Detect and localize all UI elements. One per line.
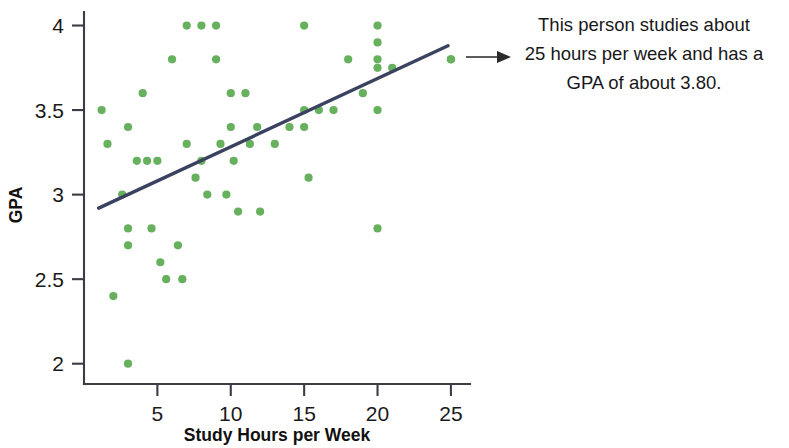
x-tick-label: 10 bbox=[219, 402, 242, 425]
data-point bbox=[124, 123, 132, 131]
trend-line bbox=[99, 46, 448, 208]
data-point bbox=[109, 292, 117, 300]
data-point bbox=[373, 38, 381, 46]
data-point bbox=[227, 123, 235, 131]
data-point bbox=[162, 275, 170, 283]
data-point bbox=[139, 89, 147, 97]
x-tick-label: 5 bbox=[152, 402, 164, 425]
data-point bbox=[344, 55, 352, 63]
data-point bbox=[197, 21, 205, 29]
data-point bbox=[256, 207, 264, 215]
annotation-text: This person studies about 25 hours per w… bbox=[505, 10, 783, 97]
y-axis-title: GPA bbox=[6, 186, 26, 223]
data-point bbox=[168, 55, 176, 63]
scatter-plot-figure: 22.533.54 510152025 Study Hours per Week… bbox=[0, 0, 789, 448]
x-axis-title: Study Hours per Week bbox=[184, 425, 371, 445]
data-point bbox=[230, 157, 238, 165]
y-tick-label: 4 bbox=[52, 14, 64, 37]
data-point bbox=[373, 55, 381, 63]
data-point bbox=[253, 123, 261, 131]
data-point bbox=[373, 21, 381, 29]
data-points-group bbox=[98, 21, 456, 367]
data-point bbox=[178, 275, 186, 283]
data-point bbox=[103, 140, 111, 148]
data-point bbox=[183, 21, 191, 29]
data-point bbox=[373, 106, 381, 114]
data-point bbox=[156, 258, 164, 266]
data-point bbox=[212, 55, 220, 63]
data-point bbox=[153, 157, 161, 165]
data-point bbox=[133, 157, 141, 165]
data-point bbox=[203, 191, 211, 199]
highlighted-data-point bbox=[447, 55, 455, 63]
data-point bbox=[174, 241, 182, 249]
y-tick-label: 3.5 bbox=[35, 99, 64, 122]
y-axis-ticks: 22.533.54 bbox=[35, 14, 84, 375]
y-tick-label: 2 bbox=[52, 352, 64, 375]
data-point bbox=[234, 207, 242, 215]
data-point bbox=[271, 140, 279, 148]
data-point bbox=[222, 191, 230, 199]
y-tick-label: 2.5 bbox=[35, 268, 64, 291]
data-point bbox=[373, 64, 381, 72]
data-point bbox=[300, 21, 308, 29]
x-tick-label: 25 bbox=[439, 402, 462, 425]
x-tick-label: 20 bbox=[366, 402, 389, 425]
data-point bbox=[124, 360, 132, 368]
x-tick-label: 15 bbox=[292, 402, 315, 425]
data-point bbox=[143, 157, 151, 165]
data-point bbox=[359, 89, 367, 97]
data-point bbox=[304, 174, 312, 182]
data-point bbox=[241, 89, 249, 97]
x-axis-ticks: 510152025 bbox=[152, 384, 463, 425]
data-point bbox=[183, 140, 191, 148]
data-point bbox=[300, 123, 308, 131]
data-point bbox=[98, 106, 106, 114]
data-point bbox=[191, 174, 199, 182]
y-tick-label: 3 bbox=[52, 183, 64, 206]
data-point bbox=[124, 224, 132, 232]
data-point bbox=[216, 140, 224, 148]
data-point bbox=[147, 224, 155, 232]
data-point bbox=[373, 224, 381, 232]
data-point bbox=[124, 241, 132, 249]
data-point bbox=[285, 123, 293, 131]
data-point bbox=[227, 89, 235, 97]
data-point bbox=[212, 21, 220, 29]
data-point bbox=[329, 106, 337, 114]
